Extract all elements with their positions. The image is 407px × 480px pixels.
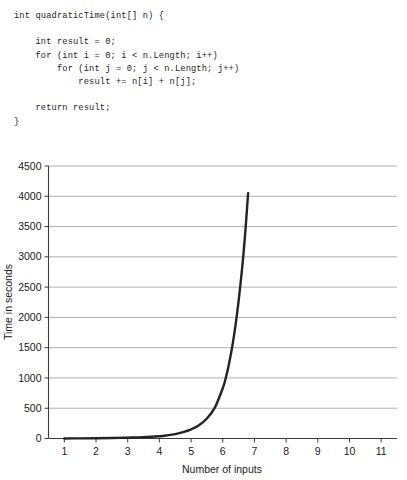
- x-tick-label: 10: [344, 445, 356, 457]
- line-chart: 050010001500200025003000350040004500 123…: [0, 148, 407, 480]
- x-axis-title: Number of inputs: [182, 463, 262, 475]
- y-axis-ticks: 050010001500200025003000350040004500: [18, 160, 48, 445]
- x-tick-label: 3: [125, 445, 131, 457]
- x-axis-ticks: 1234567891011: [61, 439, 386, 457]
- x-tick-label: 1: [61, 445, 67, 457]
- y-tick-label: 2500: [18, 281, 42, 293]
- x-tick-label: 7: [252, 445, 258, 457]
- x-tick-label: 4: [156, 445, 162, 457]
- y-tick-label: 500: [24, 402, 42, 414]
- y-tick-label: 1500: [18, 341, 42, 353]
- x-tick-label: 6: [220, 445, 226, 457]
- grid-lines: [49, 166, 398, 408]
- y-tick-label: 4500: [18, 160, 42, 172]
- x-tick-label: 5: [188, 445, 194, 457]
- code-line: for (int j = 0; j < n.Length; j++): [14, 63, 407, 76]
- x-tick-label: 2: [93, 445, 99, 457]
- y-tick-label: 2000: [18, 311, 42, 323]
- chart-canvas: 050010001500200025003000350040004500 123…: [0, 148, 407, 480]
- code-line: int quadraticTime(int[] n) {: [14, 10, 407, 23]
- y-tick-label: 4000: [18, 190, 42, 202]
- code-line: }: [14, 116, 407, 129]
- y-tick-label: 3500: [18, 220, 42, 232]
- y-tick-label: 1000: [18, 372, 42, 384]
- code-line: return result;: [14, 102, 407, 115]
- y-tick-label: 0: [36, 432, 42, 444]
- code-line: int result = 0;: [14, 36, 407, 49]
- y-tick-label: 3000: [18, 250, 42, 262]
- code-line: result += n[i] + n[j];: [14, 76, 407, 89]
- code-listing: int quadraticTime(int[] n) { int result …: [0, 0, 407, 148]
- x-tick-label: 9: [315, 445, 321, 457]
- y-axis-title: Time in seconds: [2, 264, 14, 340]
- x-tick-label: 8: [283, 445, 289, 457]
- code-line: for (int i = 0; i < n.Length; i++): [14, 50, 407, 63]
- code-line: [14, 23, 407, 36]
- x-tick-label: 11: [376, 445, 387, 457]
- code-line: [14, 89, 407, 102]
- series-line-quadratic: [64, 193, 248, 438]
